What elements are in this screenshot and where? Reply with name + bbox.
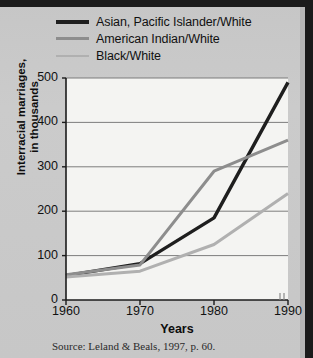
y-tick-label: 300 — [18, 159, 58, 173]
x-tick-label: 1980 — [189, 304, 239, 318]
plot-background — [66, 78, 288, 300]
y-tick-label: 200 — [18, 203, 58, 217]
y-tick-label: 100 — [18, 248, 58, 262]
y-tick-label: 400 — [18, 114, 58, 128]
x-tick-label: 1960 — [41, 304, 91, 318]
y-tick-label: 500 — [18, 70, 58, 84]
source-note: Source: Leland & Beals, 1997, p. 60. — [52, 340, 215, 352]
x-axis-label: Years — [66, 322, 288, 336]
figure-panel: Asian, Pacific Islander/White American I… — [0, 0, 313, 358]
x-tick-label: 1990 — [263, 304, 313, 318]
x-tick-label: 1970 — [115, 304, 165, 318]
